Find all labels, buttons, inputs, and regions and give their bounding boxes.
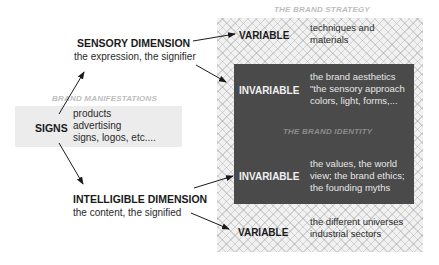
bottom-variable-description: the different universes industrial secto… (310, 216, 403, 240)
brand-manifestations-title: BRAND MANIFESTATIONS (52, 94, 157, 103)
brand-strategy-title: THE BRAND STRATEGY (274, 5, 370, 14)
desc-line: the different universes (310, 216, 403, 228)
intelligible-dimension-subtitle: the content, the signified (73, 207, 181, 218)
desc-line: the values, the world (310, 158, 405, 170)
desc-line: the brand aesthetics (310, 71, 405, 83)
sensory-dimension-subtitle: the expression, the signifier (74, 51, 196, 62)
signs-list: products advertising signs, logos, etc..… (73, 108, 156, 144)
desc-line: colors, light, forms,... (310, 95, 405, 107)
bottom-invariable-description: the values, the world view; the brand et… (310, 158, 405, 194)
bottom-invariable-label: INVARIABLE (239, 171, 299, 182)
signs-item: signs, logos, etc.... (73, 132, 156, 144)
arrow-signs-to-intelligible (59, 143, 83, 184)
desc-line: the founding myths (310, 182, 405, 194)
top-variable-label: VARIABLE (239, 30, 289, 41)
brand-identity-title: THE BRAND IDENTITY (283, 127, 372, 136)
signs-item: products (73, 108, 156, 120)
top-variable-description: techniques and materials (310, 22, 374, 46)
signs-label: SIGNS (35, 122, 68, 134)
desc-line: techniques and (310, 22, 374, 34)
desc-line: materials (310, 34, 374, 46)
signs-item: advertising (73, 120, 156, 132)
intelligible-dimension-heading: INTELLIGIBLE DIMENSION (73, 193, 207, 205)
desc-line: "the sensory approach (310, 83, 405, 95)
sensory-dimension-heading: SENSORY DIMENSION (77, 37, 190, 49)
desc-line: view; the brand ethics; (310, 170, 405, 182)
top-invariable-description: the brand aesthetics "the sensory approa… (310, 71, 405, 107)
bottom-variable-label: VARIABLE (238, 227, 288, 238)
top-invariable-label: INVARIABLE (239, 85, 299, 96)
desc-line: industrial sectors (310, 228, 403, 240)
